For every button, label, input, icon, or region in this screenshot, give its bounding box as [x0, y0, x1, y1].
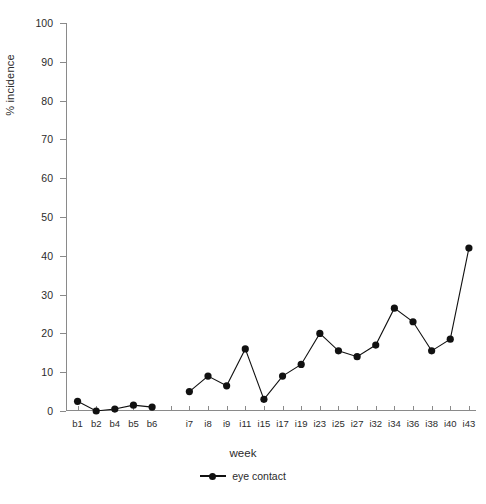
data-point-marker — [372, 341, 379, 348]
data-point-marker — [111, 405, 118, 412]
y-axis-tick-label: 80 — [23, 96, 53, 106]
plot-area — [66, 23, 476, 411]
data-point-marker — [447, 336, 454, 343]
y-axis-tick-label: 90 — [23, 57, 53, 67]
legend-item-label: eye contact — [232, 470, 286, 482]
data-point-marker — [74, 398, 81, 405]
y-axis-tick — [60, 411, 66, 412]
y-axis-tick-label: 10 — [23, 367, 53, 377]
data-series-eye-contact — [66, 23, 476, 411]
y-axis-tick-label: 60 — [23, 173, 53, 183]
data-point-marker — [465, 244, 472, 251]
series-line — [189, 248, 469, 399]
data-point-marker — [316, 330, 323, 337]
y-axis-tick-label: 20 — [23, 328, 53, 338]
y-axis-tick-label: 100 — [23, 18, 53, 28]
y-axis-tick-label: 40 — [23, 251, 53, 261]
y-axis-tick-label: 50 — [23, 212, 53, 222]
y-axis-title: % incidence — [4, 20, 16, 150]
data-point-marker — [279, 372, 286, 379]
data-point-marker — [130, 402, 137, 409]
data-point-marker — [149, 404, 156, 411]
data-point-marker — [391, 305, 398, 312]
data-point-marker — [335, 347, 342, 354]
figure-caption — [0, 496, 486, 504]
chart-figure: % incidence 0102030405060708090100 b1b2b… — [0, 0, 486, 504]
chart-legend: eye contact — [0, 470, 486, 482]
data-point-marker — [409, 318, 416, 325]
x-axis-tick-label: i43 — [454, 419, 484, 429]
data-point-marker — [223, 382, 230, 389]
data-point-marker — [428, 347, 435, 354]
x-axis-title: week — [0, 447, 486, 459]
y-axis-tick-label: 70 — [23, 134, 53, 144]
data-point-marker — [186, 388, 193, 395]
data-point-marker — [93, 407, 100, 414]
data-point-marker — [260, 396, 267, 403]
data-point-marker — [204, 372, 211, 379]
y-axis-tick-label: 30 — [23, 290, 53, 300]
x-axis-tick-label: b6 — [137, 419, 167, 429]
data-point-marker — [354, 353, 361, 360]
data-point-marker — [242, 345, 249, 352]
filled-circle-line-marker-icon — [200, 471, 226, 481]
data-point-marker — [298, 361, 305, 368]
y-axis-tick-label: 0 — [23, 406, 53, 416]
